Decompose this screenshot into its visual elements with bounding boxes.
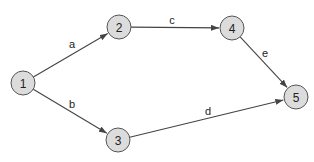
- edges-layer: abcde: [33, 14, 287, 137]
- edge-arrow: [240, 37, 287, 88]
- edge-e: e: [240, 37, 287, 88]
- edge-label: a: [69, 38, 76, 50]
- node-label: 5: [293, 91, 300, 105]
- edge-label: d: [205, 105, 211, 117]
- edge-arrow: [33, 89, 107, 133]
- node-label: 1: [20, 77, 27, 91]
- node-3: 3: [106, 128, 130, 152]
- edge-d: d: [130, 100, 284, 137]
- network-diagram: abcde 12345: [0, 0, 314, 162]
- node-label: 3: [115, 134, 122, 148]
- edge-label: c: [169, 14, 175, 26]
- node-1: 1: [11, 71, 35, 95]
- edge-b: b: [33, 89, 107, 133]
- nodes-layer: 12345: [11, 15, 308, 152]
- node-5: 5: [284, 85, 308, 109]
- edge-label: b: [69, 98, 75, 110]
- edge-arrow: [131, 27, 219, 28]
- node-label: 4: [229, 22, 236, 36]
- edge-label: e: [262, 47, 268, 59]
- node-2: 2: [107, 15, 131, 39]
- diagram-svg: abcde 12345: [0, 0, 314, 162]
- node-label: 2: [116, 21, 123, 35]
- edge-c: c: [131, 14, 219, 28]
- node-4: 4: [220, 16, 244, 40]
- edge-a: a: [33, 34, 107, 77]
